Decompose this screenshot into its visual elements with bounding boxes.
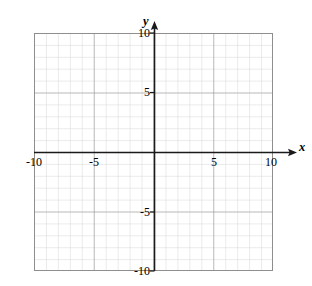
y-axis-arrowhead [151, 21, 158, 30]
x-tick-label-5: 5 [211, 156, 217, 168]
y-tick-label-5: 5 [144, 86, 150, 98]
x-axis-arrowhead [288, 149, 297, 156]
y-tick-label-10: 10 [138, 27, 150, 39]
y-axis-label: y [143, 15, 149, 28]
x-tick-label-neg5: -5 [89, 156, 99, 168]
x-tick-label-10: 10 [265, 156, 277, 168]
y-tick-label-neg5: -5 [140, 206, 150, 218]
x-axis-label: x [299, 141, 305, 154]
coordinate-plane-figure: -10 -5 5 10 10 5 -5 -10 x y [0, 0, 312, 286]
x-tick-label-neg10: -10 [26, 156, 42, 168]
y-tick-label-neg10: -10 [134, 265, 150, 277]
grid [34, 33, 273, 271]
plot-area [34, 33, 273, 271]
